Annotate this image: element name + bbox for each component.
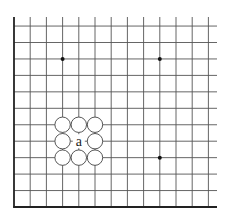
empty-stone-circle [55,150,70,165]
empty-stone-circle [71,117,86,132]
empty-stone-circle [55,117,70,132]
point-label-a: a [76,134,83,149]
board-edges [13,17,217,208]
empty-stone-circle [71,150,86,165]
empty-stone-circle [87,117,102,132]
empty-stone-circle [55,134,70,149]
go-board-diagram: a [0,0,232,219]
empty-stone-circle [87,150,102,165]
grid-lines [14,17,217,207]
point-labels: a [73,134,85,149]
star-point-icon [61,57,65,61]
star-point-icon [158,156,162,160]
star-point-icon [158,57,162,61]
empty-stone-circle [87,134,102,149]
